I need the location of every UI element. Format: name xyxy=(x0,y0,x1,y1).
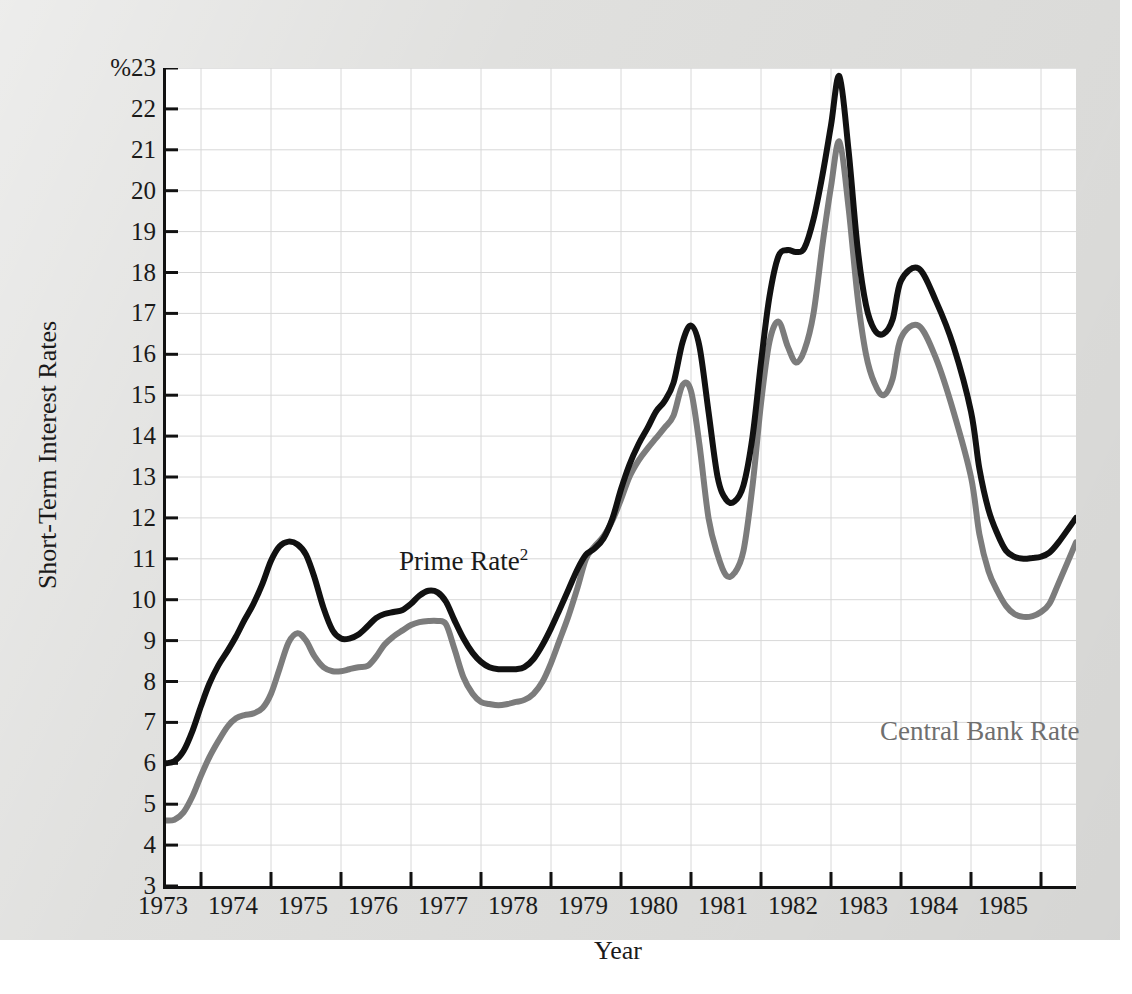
y-axis-tick-label: 12 xyxy=(131,505,156,530)
y-axis-tick-label: 10 xyxy=(131,587,156,612)
x-axis-tick-label: 1983 xyxy=(838,893,888,918)
chart-canvas xyxy=(166,68,1076,886)
plot-area: Prime Rate2 Central Bank Rate xyxy=(163,68,1076,889)
y-axis-tick-label: 9 xyxy=(144,628,157,653)
x-axis-tick-label: 1976 xyxy=(348,893,398,918)
y-axis-tick-label: 7 xyxy=(144,709,157,734)
x-axis-tick-label: 1973 xyxy=(138,893,188,918)
y-axis-tick-label: %23 xyxy=(110,55,156,80)
y-axis-tick-labels: %23222120191817161514131211109876543 xyxy=(60,0,156,994)
figure-container: %23222120191817161514131211109876543 Pri… xyxy=(0,0,1132,994)
y-axis-tick-label: 13 xyxy=(131,464,156,489)
x-axis-tick-labels: 1973197419751976197719781979198019811982… xyxy=(163,893,1073,933)
y-axis-tick-label: 15 xyxy=(131,382,156,407)
x-axis-tick-label: 1978 xyxy=(488,893,538,918)
y-axis-tick-label: 4 xyxy=(144,832,157,857)
x-axis-tick-marks xyxy=(201,872,1041,886)
x-axis-tick-label: 1982 xyxy=(768,893,818,918)
x-axis-tick-label: 1985 xyxy=(978,893,1028,918)
series-label-prime-rate: Prime Rate2 xyxy=(399,545,528,577)
series-label-prime-rate-footnote: 2 xyxy=(520,545,529,564)
x-axis-tick-label: 1975 xyxy=(278,893,328,918)
y-axis-tick-label: 16 xyxy=(131,341,156,366)
y-axis-tick-label: 17 xyxy=(131,300,156,325)
y-axis-tick-label: 19 xyxy=(131,219,156,244)
series-label-prime-rate-text: Prime Rate xyxy=(399,546,520,576)
x-axis-tick-label: 1977 xyxy=(418,893,468,918)
x-axis-tick-label: 1974 xyxy=(208,893,258,918)
gridlines xyxy=(166,68,1076,886)
x-axis-tick-label: 1979 xyxy=(558,893,608,918)
y-axis-tick-label: 11 xyxy=(132,546,156,571)
series-label-central-bank-rate: Central Bank Rate xyxy=(880,716,1079,747)
y-axis-tick-label: 6 xyxy=(144,750,157,775)
y-axis-tick-label: 22 xyxy=(131,96,156,121)
y-axis-tick-label: 5 xyxy=(144,791,157,816)
y-axis-tick-label: 18 xyxy=(131,260,156,285)
y-axis-tick-label: 21 xyxy=(131,137,156,162)
x-axis-tick-label: 1984 xyxy=(908,893,958,918)
x-axis-title: Year xyxy=(163,936,1073,966)
x-axis-tick-label: 1981 xyxy=(698,893,748,918)
y-axis-title: Short-Term Interest Rates xyxy=(33,245,63,665)
y-axis-tick-label: 8 xyxy=(144,669,157,694)
y-axis-tick-label: 14 xyxy=(131,423,156,448)
x-axis-tick-label: 1980 xyxy=(628,893,678,918)
y-axis-tick-label: 20 xyxy=(131,178,156,203)
